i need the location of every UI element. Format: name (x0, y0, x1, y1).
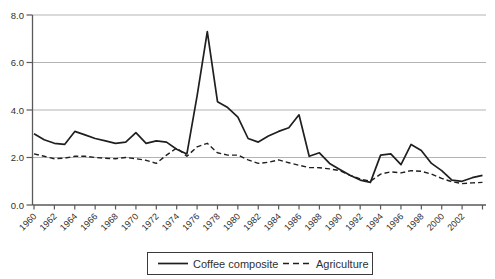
x-axis-label: 1998 (405, 211, 426, 232)
y-axis-label: 2.0 (11, 152, 24, 163)
x-axis-label: 1962 (38, 211, 59, 232)
agriculture-line (34, 143, 483, 183)
x-axis-label: 2002 (445, 211, 466, 232)
y-axis-label: 4.0 (11, 105, 24, 116)
x-axis-label: 1980 (221, 211, 242, 232)
x-axis-label: 1966 (78, 211, 99, 232)
x-axis-label: 1986 (282, 211, 303, 232)
x-axis-label: 1976 (180, 211, 201, 232)
y-axis-label: 0.0 (11, 200, 24, 211)
x-axis-label: 1972 (139, 211, 160, 232)
x-axis-label: 1994 (364, 211, 385, 232)
legend-coffee-label: Coffee composite (193, 258, 278, 270)
x-axis-label: 1978 (201, 211, 222, 232)
coffee-agriculture-line-chart: 0.02.04.06.08.01960196219641966196819701… (0, 0, 495, 279)
x-axis-label: 1964 (58, 211, 79, 232)
coffee-composite-line (34, 32, 483, 183)
chart-container: 0.02.04.06.08.01960196219641966196819701… (0, 0, 495, 279)
x-axis-label: 1968 (99, 211, 120, 232)
x-axis-label: 1990 (323, 211, 344, 232)
y-axis-label: 6.0 (11, 57, 24, 68)
x-axis-label: 1970 (119, 211, 140, 232)
x-axis-label: 1988 (303, 211, 324, 232)
x-axis-label: 1992 (343, 211, 364, 232)
x-axis-label: 1960 (17, 211, 38, 232)
x-axis-label: 1984 (262, 211, 283, 232)
legend: Coffee composite Agriculture (148, 253, 373, 275)
x-axis-label: 1974 (160, 211, 181, 232)
x-axis-label: 1996 (384, 211, 405, 232)
legend-agriculture-label: Agriculture (316, 258, 369, 270)
x-axis-label: 1982 (241, 211, 262, 232)
x-axis-label: 2000 (425, 211, 446, 232)
y-axis-label: 8.0 (11, 10, 24, 21)
